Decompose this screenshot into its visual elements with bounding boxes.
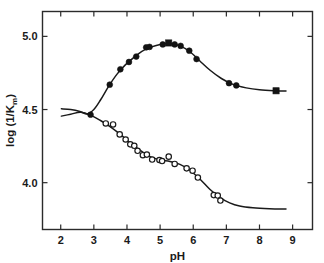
data-point-open — [123, 137, 128, 142]
data-point-open — [135, 148, 140, 153]
fitted-curves — [61, 43, 286, 209]
y-axis-title: log (1/Km) — [4, 94, 19, 147]
x-axis-title: pH — [170, 250, 185, 262]
data-point-square — [273, 88, 279, 94]
x-tick-label: 2 — [58, 234, 64, 246]
x-tick-label: 3 — [91, 234, 97, 246]
data-point-open — [218, 198, 223, 203]
data-point-filled — [178, 43, 184, 49]
y-axis-title-tail: ) — [4, 94, 16, 98]
x-tick-label: 9 — [290, 234, 296, 246]
x-tick-label: 8 — [256, 234, 262, 246]
data-point-filled — [233, 82, 239, 88]
data-point-open — [110, 122, 115, 127]
data-point-open — [195, 175, 200, 180]
data-point-square — [166, 40, 172, 46]
data-points — [88, 40, 280, 203]
data-point-filled — [107, 82, 113, 88]
data-point-filled — [88, 112, 94, 118]
data-point-filled — [160, 42, 166, 48]
data-point-open — [184, 166, 189, 171]
upper-curve — [61, 43, 286, 114]
data-point-filled — [117, 66, 123, 72]
data-point-open — [190, 168, 195, 173]
y-tick-label: 4.0 — [22, 177, 37, 189]
data-point-filled — [147, 44, 153, 50]
y-tick-label: 4.5 — [22, 104, 37, 116]
axis-labels: 234567894.04.55.0pHlog (1/Km) — [4, 30, 296, 261]
data-point-filled — [226, 80, 232, 86]
x-tick-label: 7 — [223, 234, 229, 246]
y-axis-title-subscript: m — [10, 98, 19, 105]
y-tick-label: 5.0 — [22, 30, 37, 42]
data-point-filled — [126, 59, 132, 65]
x-tick-label: 5 — [157, 234, 163, 246]
data-point-filled — [194, 56, 200, 62]
data-point-open — [117, 132, 122, 137]
data-point-open — [144, 152, 149, 157]
data-point-open — [132, 143, 137, 148]
y-axis-title-main: log (1/K — [4, 104, 16, 147]
data-point-filled — [172, 42, 178, 48]
data-point-filled — [186, 48, 192, 54]
lower-curve — [61, 112, 286, 209]
data-point-open — [172, 161, 177, 166]
ph-dependence-plot: 234567894.04.55.0pHlog (1/Km) — [0, 0, 324, 263]
data-point-open — [159, 158, 164, 163]
x-tick-label: 6 — [190, 234, 196, 246]
data-point-open — [166, 154, 171, 159]
data-point-filled — [133, 54, 139, 60]
x-tick-label: 4 — [124, 234, 131, 246]
chart-figure: 234567894.04.55.0pHlog (1/Km) — [0, 0, 324, 263]
data-point-open — [103, 121, 108, 126]
data-point-open — [149, 157, 154, 162]
